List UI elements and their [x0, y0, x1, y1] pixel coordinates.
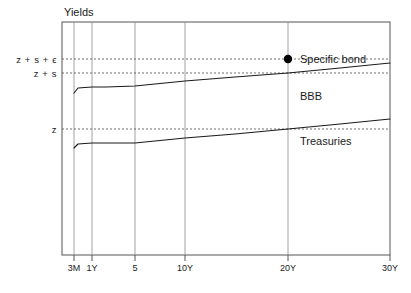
- series-line-bbb: [74, 63, 390, 93]
- y-tick-label-z-plus-s-plus-epsilon: z + s + ϵ: [16, 54, 57, 65]
- specific-bond-label: Specific bond: [300, 53, 366, 65]
- x-tick-label-3m: 3M: [68, 263, 81, 273]
- specific-bond-marker-icon: [284, 55, 292, 63]
- x-tick-label-5: 5: [132, 263, 137, 273]
- x-tick-label-10y: 10Y: [177, 263, 193, 273]
- y-tick-label-z: z: [52, 124, 57, 135]
- y-axis-title: Yields: [64, 6, 94, 18]
- series-label-bbb: BBB: [300, 90, 322, 102]
- series-label-treasuries: Treasuries: [300, 135, 352, 147]
- y-tick-label-z-plus-s: z + s: [34, 68, 57, 79]
- x-tick-label-30y: 30Y: [382, 263, 398, 273]
- x-tick-label-1y: 1Y: [86, 263, 97, 273]
- x-axis-ticks: [74, 255, 390, 261]
- horizontal-reference-lines: [62, 59, 390, 129]
- yield-curve-chart: Yields z + s + ϵ z + s z 3M 1Y 5 10Y 20Y…: [0, 0, 411, 293]
- x-tick-label-20y: 20Y: [280, 263, 296, 273]
